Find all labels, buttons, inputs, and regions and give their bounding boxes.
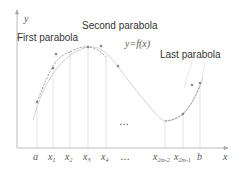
tick-x4: x4	[100, 151, 108, 163]
tick-x2m-1: x2m-1	[173, 151, 191, 163]
point-off-4	[191, 84, 194, 87]
point-x1	[52, 67, 55, 70]
tick-x3: x3	[82, 151, 90, 163]
x-axis-arrow-icon	[224, 147, 228, 150]
tick-a: a	[33, 151, 38, 162]
last-parabola	[165, 85, 200, 121]
second-parabola-label: Second parabola	[82, 20, 158, 31]
point-b	[199, 82, 202, 85]
point-off-2	[100, 45, 103, 48]
tick-ellipsis: …	[120, 151, 130, 162]
first-parabola-label: First parabola	[17, 32, 79, 43]
x-axis-label: x	[222, 151, 228, 162]
point-off-3	[117, 65, 120, 68]
tick-x1: x1	[47, 151, 55, 163]
tick-x2: x2	[64, 151, 72, 163]
point-a	[36, 101, 39, 104]
y-axis-label: y	[23, 13, 29, 24]
simpson-rule-diagram: y First parabola Second parabola Last pa…	[0, 0, 241, 172]
x-tick-labels: a x1 x2 x3 x4 … x2m-2 x2m-1 b x	[33, 151, 228, 163]
tick-x2m-2: x2m-2	[152, 151, 170, 163]
y-axis-arrow-icon	[16, 10, 19, 14]
tick-b: b	[197, 151, 202, 162]
last-parabola-pointer	[184, 62, 192, 88]
last-parabola-label: Last parabola	[160, 49, 221, 60]
function-label: y=f(x)	[124, 38, 151, 50]
last-parabola-pointer-2	[202, 62, 205, 78]
point-x2m-1	[182, 113, 185, 116]
middle-ellipsis: …	[119, 116, 129, 127]
partition-lines	[37, 47, 200, 148]
point-x3	[87, 46, 90, 49]
point-off-1	[55, 53, 58, 56]
